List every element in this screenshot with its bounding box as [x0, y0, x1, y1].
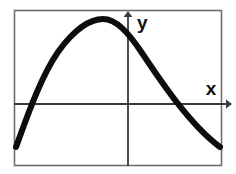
- x-axis-label: x: [206, 78, 217, 99]
- y-axis-label: y: [137, 12, 148, 33]
- graph-canvas: x y: [0, 0, 236, 174]
- parabola-figure: x y: [0, 0, 236, 174]
